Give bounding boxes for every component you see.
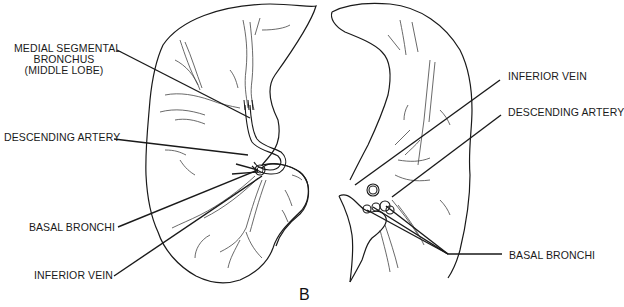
label-inferior-vein-right: INFERIOR VEIN	[508, 71, 587, 82]
leader-medial-segmental	[117, 50, 250, 118]
left-lung-lobe-edge	[262, 164, 309, 246]
label-descending-artery-left: DESCENDING ARTERY	[4, 132, 114, 143]
label-descending-artery-right: DESCENDING ARTERY	[508, 107, 624, 118]
right-lung-outline-lateral	[332, 3, 472, 278]
panel-letter: B	[299, 286, 310, 304]
label-medial-segmental-line3: (MIDDLE LOBE)	[14, 65, 114, 76]
label-basal-bronchi-left: BASAL BRONCHI	[20, 222, 115, 233]
leader-lines	[114, 50, 502, 276]
left-lung-outline	[146, 4, 316, 283]
right-lung-hilum-structures	[363, 184, 394, 214]
leader-inferior-vein-left	[114, 176, 262, 276]
right-lung-outline-medial	[332, 12, 390, 180]
label-basal-bronchi-right: BASAL BRONCHI	[509, 250, 595, 261]
leader-descending-artery-right	[392, 115, 501, 197]
left-lung	[146, 4, 316, 283]
right-lung	[332, 3, 472, 282]
leader-basal-bronchi-left	[118, 170, 258, 227]
label-inferior-vein-left: INFERIOR VEIN	[20, 270, 113, 281]
label-medial-segmental-bronchus: MEDIAL SEGMENTAL BRONCHUS (MIDDLE LOBE)	[14, 43, 114, 76]
right-lung-vessels	[380, 20, 450, 272]
